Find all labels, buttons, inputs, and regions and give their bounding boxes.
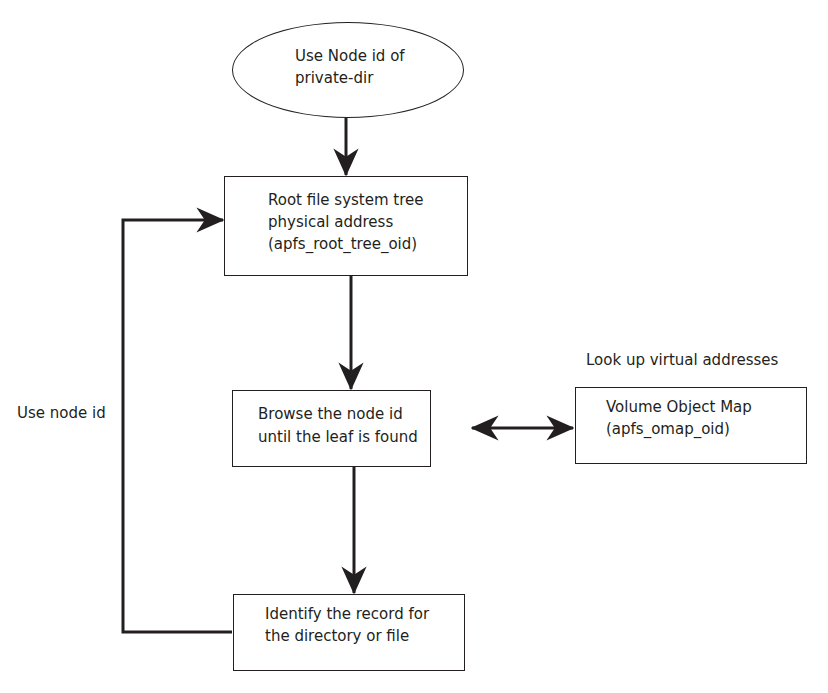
root-tree-label-line-3: (apfs_root_tree_oid): [268, 234, 417, 254]
browse-label-line-1: Browse the node id: [258, 404, 403, 424]
root-tree-label-line-2: physical address: [268, 212, 393, 232]
lookup-label: Look up virtual addresses: [586, 350, 778, 370]
loop-label: Use node id: [17, 403, 106, 423]
omap-label-line-1: Volume Object Map: [606, 397, 752, 417]
browse-label-line-2: until the leaf is found: [258, 427, 418, 447]
start-label-line-1: Use Node id of: [295, 46, 405, 66]
omap-label-line-2: (apfs_omap_oid): [606, 419, 730, 439]
arrow-loop-identify-to-root-tree: [123, 220, 232, 632]
identify-label-line-2: the directory or file: [265, 626, 409, 646]
start-label-line-2: private-dir: [295, 68, 373, 88]
root-tree-label-line-1: Root file system tree: [268, 190, 424, 210]
identify-label-line-1: Identify the record for: [265, 604, 429, 624]
